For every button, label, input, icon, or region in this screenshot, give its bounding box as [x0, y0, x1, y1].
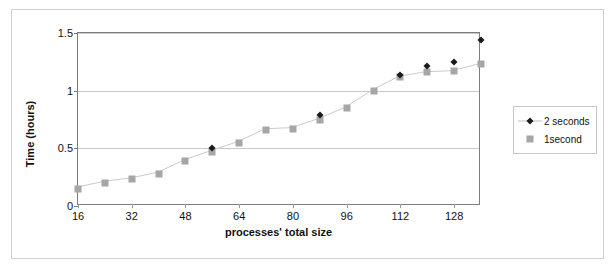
- x-tick-label: 48: [179, 210, 191, 222]
- legend-item-2-seconds: 2 seconds: [518, 112, 592, 130]
- x-tick-label: 80: [287, 210, 299, 222]
- gridline: [78, 91, 479, 92]
- data-point-1second: [289, 125, 296, 132]
- x-tick-label: 112: [392, 210, 410, 222]
- y-tick-mark: [74, 91, 78, 92]
- x-tick-mark: [454, 204, 455, 208]
- x-tick-label: 64: [233, 210, 245, 222]
- data-point-1second: [128, 176, 135, 183]
- y-tick-mark: [74, 33, 78, 34]
- data-point-2-seconds: [477, 36, 484, 43]
- data-point-2-seconds: [451, 58, 458, 65]
- y-tick-mark: [74, 148, 78, 149]
- plot-area: 00.511.5 163248648096112128: [77, 32, 480, 205]
- gridline: [78, 148, 479, 149]
- data-point-1second: [424, 69, 431, 76]
- y-tick-label: 1: [67, 85, 73, 97]
- y-axis-title: Time (hours): [24, 101, 36, 167]
- data-point-1second: [155, 170, 162, 177]
- data-point-1second: [370, 87, 377, 94]
- chart-legend: 2 seconds 1second: [513, 106, 597, 154]
- legend-label: 2 seconds: [542, 116, 590, 127]
- data-point-1second: [236, 139, 243, 146]
- x-tick-label: 96: [341, 210, 353, 222]
- y-tick-label: 0.5: [58, 142, 73, 154]
- x-tick-mark: [293, 204, 294, 208]
- data-point-1second: [478, 61, 485, 68]
- legend-label: 1second: [542, 134, 582, 145]
- x-tick-mark: [347, 204, 348, 208]
- data-point-1second: [182, 158, 189, 165]
- series-line-1second: [78, 64, 479, 187]
- x-tick-mark: [239, 204, 240, 208]
- legend-item-1second: 1second: [518, 130, 592, 148]
- data-point-1second: [451, 68, 458, 75]
- series-line-layer: [78, 33, 479, 204]
- data-point-1second: [263, 126, 270, 133]
- x-axis-title: processes' total size: [77, 226, 480, 238]
- x-tick-mark: [132, 204, 133, 208]
- x-tick-mark: [185, 204, 186, 208]
- x-tick-mark: [78, 204, 79, 208]
- legend-marker-square-icon: [518, 132, 542, 146]
- data-point-1second: [343, 104, 350, 111]
- x-tick-mark: [400, 204, 401, 208]
- data-point-1second: [75, 185, 82, 192]
- gridline: [78, 33, 479, 34]
- chart-figure: Time (hours) 00.511.5 163248648096112128…: [11, 9, 604, 259]
- x-tick-label: 32: [126, 210, 138, 222]
- x-tick-label: 16: [72, 210, 84, 222]
- y-tick-label: 1.5: [58, 27, 73, 39]
- data-point-1second: [101, 179, 108, 186]
- legend-marker-diamond-icon: [518, 114, 542, 128]
- x-tick-label: 128: [445, 210, 463, 222]
